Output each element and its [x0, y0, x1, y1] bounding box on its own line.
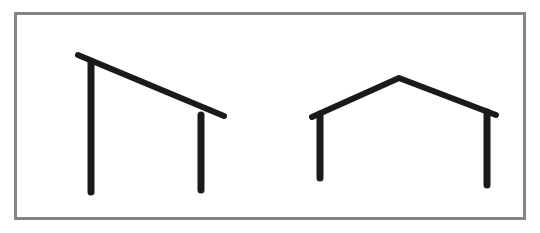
roof-beam: [78, 55, 224, 116]
diagram-canvas: [0, 0, 540, 233]
roof-beam: [312, 78, 496, 117]
structures-drawing: [0, 0, 540, 233]
lean-to-structure: [78, 55, 224, 192]
gable-structure: [312, 78, 496, 185]
